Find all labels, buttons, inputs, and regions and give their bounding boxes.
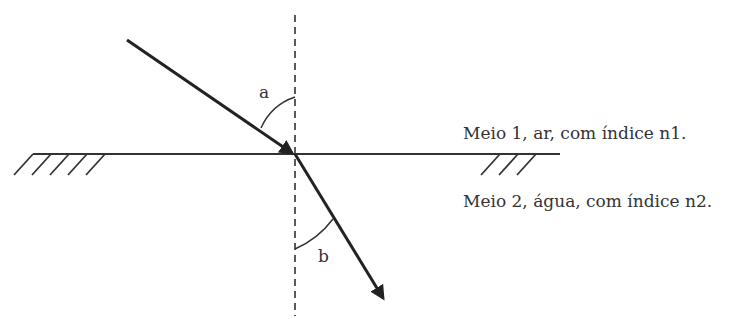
hatch-right: [481, 154, 536, 175]
medium-1-label: Meio 1, ar, com índice n1.: [463, 123, 687, 143]
medium-2-label: Meio 2, água, com índice n2.: [463, 191, 712, 211]
angle-label-a: a: [259, 82, 269, 102]
hatch-left: [14, 154, 105, 175]
angle-label-b: b: [318, 246, 329, 266]
refracted-ray: [295, 154, 383, 298]
angle-arc-b: [295, 219, 333, 249]
refraction-diagram: [0, 0, 731, 319]
